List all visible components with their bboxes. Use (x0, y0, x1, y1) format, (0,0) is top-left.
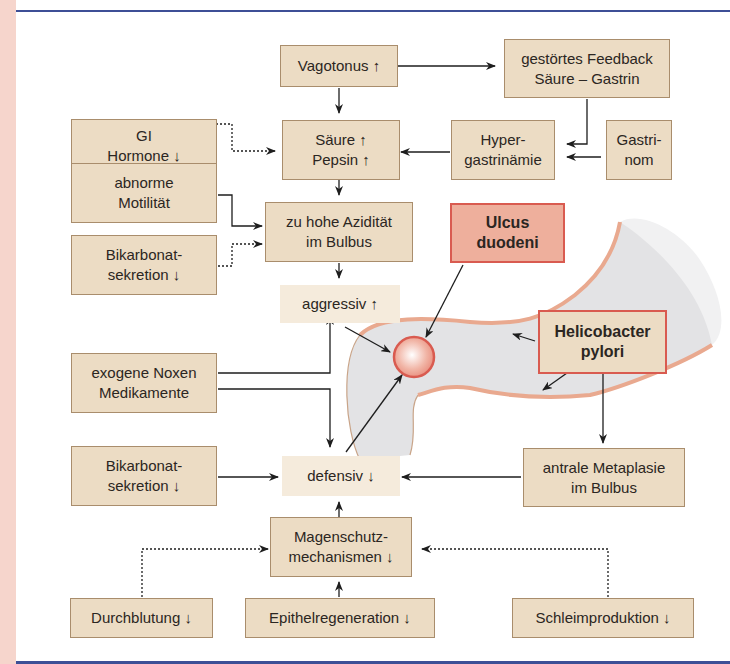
node-hypergastrinaemie: Hyper- gastrinämie (451, 120, 555, 180)
node-vagotonus: Vagotonus ↑ (280, 45, 398, 87)
node-magenschutz: Magenschutz- mechanismen ↓ (270, 517, 412, 577)
node-motilitaet: abnorme Motilität (71, 163, 217, 223)
node-schleimproduktion: Schleimproduktion ↓ (512, 598, 694, 638)
node-saeure-pepsin: Säure ↑ Pepsin ↑ (282, 120, 400, 180)
node-feedback: gestörtes Feedback Säure – Gastrin (504, 39, 670, 98)
node-aziditaet: zu hohe Azidität im Bulbus (265, 202, 413, 262)
node-exogene-noxen: exogene Noxen Medikamente (71, 353, 217, 413)
node-aggressiv: aggressiv ↑ (280, 285, 400, 323)
node-epithelregeneration: Epithelregeneration ↓ (245, 598, 435, 638)
node-bikarbonat-bottom: Bikarbonat- sekretion ↓ (71, 446, 217, 506)
node-gastrinom: Gastri- nom (606, 120, 672, 180)
node-durchblutung: Durchblutung ↓ (70, 598, 213, 638)
node-helicobacter-pylori: Helicobacter pylori (538, 310, 667, 374)
node-antrale-metaplasie: antrale Metaplasie im Bulbus (523, 448, 685, 507)
node-ulcus-duodeni: Ulcus duodeni (450, 203, 565, 263)
node-bikarbonat-top: Bikarbonat- sekretion ↓ (71, 235, 217, 295)
ulcer-marker (394, 337, 434, 377)
node-defensiv: defensiv ↓ (282, 456, 400, 496)
